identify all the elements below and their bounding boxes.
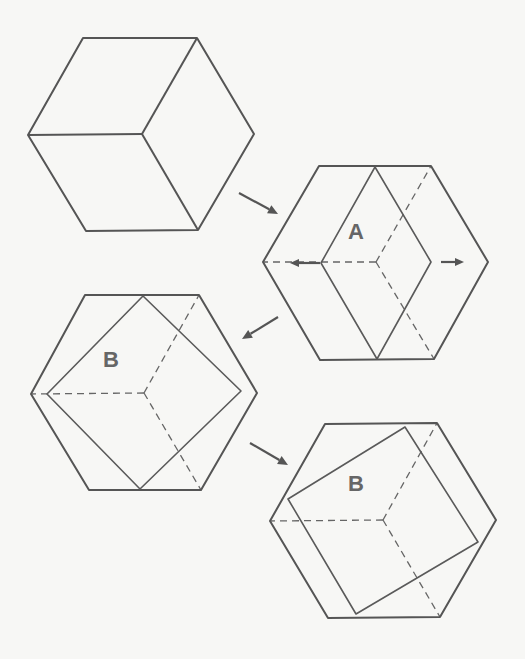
- hidden-edge: [383, 520, 440, 617]
- hidden-edge: [144, 295, 199, 393]
- transition-arrow: [239, 193, 278, 214]
- cube-edge: [142, 134, 198, 230]
- cube-transformation-diagram: [0, 0, 525, 659]
- cube-edge: [142, 38, 197, 134]
- panel-label-state-b-1: B: [103, 347, 119, 373]
- transition-arrow: [242, 317, 278, 339]
- cube-edge: [28, 134, 142, 135]
- panel-label-state-b-2: B: [348, 471, 364, 497]
- panel-label-state-a: A: [348, 219, 364, 245]
- arrowhead-icon: [455, 258, 464, 266]
- motion-arrow: [290, 259, 320, 267]
- transition-arrow: [250, 443, 288, 465]
- panel-state-b-2: [270, 423, 496, 618]
- hidden-edge: [144, 393, 201, 490]
- arrowhead-icon: [290, 259, 299, 267]
- motion-arrow: [441, 258, 464, 266]
- hidden-edge: [383, 423, 437, 520]
- panel-cube: [28, 38, 254, 231]
- hidden-edge: [270, 520, 383, 521]
- panel-state-b-1: [31, 295, 257, 490]
